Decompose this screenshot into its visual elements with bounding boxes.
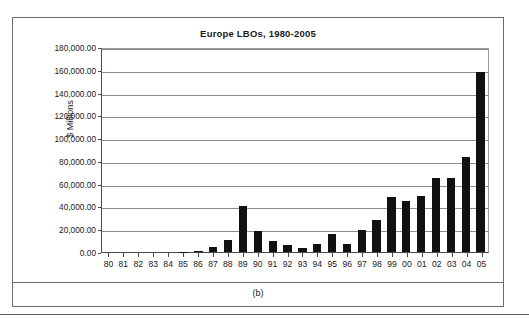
x-axis-tick-label: 90 bbox=[250, 259, 265, 269]
x-axis-tick-mark bbox=[302, 253, 303, 257]
x-axis-tick-slot: 84 bbox=[161, 253, 176, 273]
x-axis-tick-slot: 93 bbox=[295, 253, 310, 273]
bar bbox=[313, 244, 321, 252]
bar bbox=[283, 245, 291, 252]
x-axis-tick-mark bbox=[422, 253, 423, 257]
bar-slot bbox=[161, 49, 176, 252]
bar-slot bbox=[132, 49, 147, 252]
x-axis-tick-slot: 96 bbox=[340, 253, 355, 273]
bar bbox=[476, 72, 484, 252]
x-axis-tick-mark bbox=[243, 253, 244, 257]
x-axis-tick-slot: 83 bbox=[146, 253, 161, 273]
x-axis-tick-slot: 02 bbox=[429, 253, 444, 273]
x-axis-tick-slot: 88 bbox=[220, 253, 235, 273]
bar-slot bbox=[117, 49, 132, 252]
bar bbox=[447, 178, 455, 252]
x-axis-tick-mark bbox=[183, 253, 184, 257]
x-axis-tick-label: 96 bbox=[340, 259, 355, 269]
bar-slot bbox=[399, 49, 414, 252]
x-axis-tick-slot: 03 bbox=[444, 253, 459, 273]
bar bbox=[402, 201, 410, 252]
y-axis-tick-label: 20,000.00 bbox=[26, 226, 96, 234]
x-axis-tick-slot: 82 bbox=[131, 253, 146, 273]
bar-slot bbox=[280, 49, 295, 252]
bar-slot bbox=[384, 49, 399, 252]
x-axis-tick-mark bbox=[198, 253, 199, 257]
x-axis-tick-label: 94 bbox=[310, 259, 325, 269]
figure-page: Europe LBOs, 1980-2005 $ Millions 180,00… bbox=[0, 0, 529, 324]
x-axis-tick-mark bbox=[347, 253, 348, 257]
bar-slot bbox=[458, 49, 473, 252]
x-axis-tick-label: 00 bbox=[399, 259, 414, 269]
y-axis-tick-label: 120,000.00 bbox=[26, 112, 96, 120]
x-axis-tick-label: 92 bbox=[280, 259, 295, 269]
x-axis-tick-mark bbox=[482, 253, 483, 257]
x-axis-tick-mark bbox=[123, 253, 124, 257]
bar bbox=[462, 157, 470, 252]
x-axis-tick-layer: 8081828384858687888990919293949596979899… bbox=[101, 253, 489, 273]
bar bbox=[224, 240, 232, 252]
bar bbox=[387, 197, 395, 252]
bar bbox=[358, 230, 366, 252]
x-axis-tick-label: 02 bbox=[429, 259, 444, 269]
bar-slot bbox=[354, 49, 369, 252]
figure-caption: (b) bbox=[13, 288, 503, 298]
x-axis-tick-label: 98 bbox=[370, 259, 385, 269]
x-axis-tick-mark bbox=[467, 253, 468, 257]
bar bbox=[432, 178, 440, 252]
x-axis-tick-mark bbox=[138, 253, 139, 257]
bottom-rule bbox=[0, 314, 529, 315]
x-axis-tick-slot: 89 bbox=[235, 253, 250, 273]
y-axis-tick-label: 40,000.00 bbox=[26, 203, 96, 211]
x-axis-tick-slot: 95 bbox=[325, 253, 340, 273]
x-axis-tick-slot: 98 bbox=[370, 253, 385, 273]
x-axis-tick-mark bbox=[317, 253, 318, 257]
x-axis-tick-label: 89 bbox=[235, 259, 250, 269]
x-axis-tick-mark bbox=[437, 253, 438, 257]
bar bbox=[239, 206, 247, 252]
bar-series bbox=[102, 49, 488, 252]
x-axis-tick-slot: 90 bbox=[250, 253, 265, 273]
bar-slot bbox=[295, 49, 310, 252]
x-axis-tick-slot: 87 bbox=[205, 253, 220, 273]
bar-slot bbox=[310, 49, 325, 252]
y-axis-tick-label: 80,000.00 bbox=[26, 158, 96, 166]
x-axis-tick-label: 88 bbox=[220, 259, 235, 269]
x-axis-tick-label: 05 bbox=[474, 259, 489, 269]
x-axis-tick-label: 81 bbox=[116, 259, 131, 269]
x-axis-tick-slot: 00 bbox=[399, 253, 414, 273]
x-axis-tick-mark bbox=[153, 253, 154, 257]
chart-figure-frame: Europe LBOs, 1980-2005 $ Millions 180,00… bbox=[12, 17, 504, 283]
y-axis-tick-label: 60,000.00 bbox=[26, 181, 96, 189]
x-axis-tick-slot: 99 bbox=[385, 253, 400, 273]
bar-slot bbox=[250, 49, 265, 252]
bar-slot bbox=[206, 49, 221, 252]
x-axis-tick-label: 99 bbox=[385, 259, 400, 269]
bar bbox=[298, 248, 306, 252]
x-axis-tick-label: 82 bbox=[131, 259, 146, 269]
y-axis-tick-label: 160,000.00 bbox=[26, 67, 96, 75]
x-axis-tick-label: 87 bbox=[205, 259, 220, 269]
bar bbox=[417, 196, 425, 252]
bar-slot bbox=[176, 49, 191, 252]
x-axis-tick-label: 01 bbox=[414, 259, 429, 269]
bar bbox=[254, 231, 262, 252]
y-axis-tick-label: 100,000.00 bbox=[26, 135, 96, 143]
x-axis-tick-mark bbox=[332, 253, 333, 257]
x-axis-tick-slot: 92 bbox=[280, 253, 295, 273]
bar-slot bbox=[102, 49, 117, 252]
x-axis-tick-label: 83 bbox=[146, 259, 161, 269]
x-axis-tick-mark bbox=[213, 253, 214, 257]
x-axis-tick-slot: 05 bbox=[474, 253, 489, 273]
bar-slot bbox=[429, 49, 444, 252]
x-axis-tick-mark bbox=[168, 253, 169, 257]
bar-slot bbox=[443, 49, 458, 252]
x-axis-tick-slot: 01 bbox=[414, 253, 429, 273]
x-axis-tick-slot: 86 bbox=[191, 253, 206, 273]
y-axis-tick-label: 140,000.00 bbox=[26, 90, 96, 98]
x-axis-tick-slot: 94 bbox=[310, 253, 325, 273]
x-axis-tick-mark bbox=[108, 253, 109, 257]
bar bbox=[194, 251, 202, 252]
chart-title: Europe LBOs, 1980-2005 bbox=[13, 28, 503, 39]
bar-slot bbox=[473, 49, 488, 252]
